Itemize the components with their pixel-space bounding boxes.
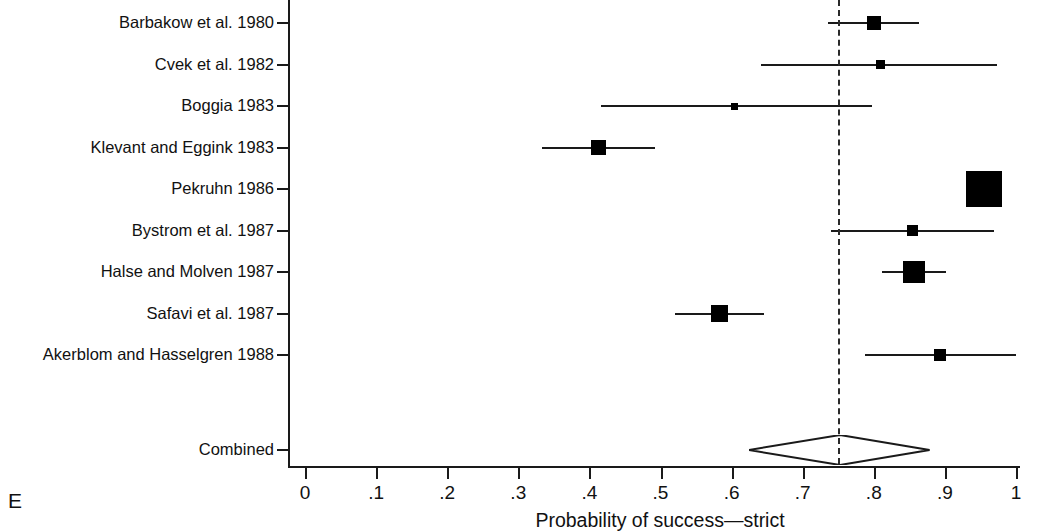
- x-tick-4: [589, 468, 591, 479]
- y-tick-0: [277, 22, 288, 24]
- study-label-4: Pekruhn 1986: [171, 180, 274, 197]
- x-tick-label-9: .9: [925, 483, 965, 502]
- study-label-2: Boggia 1983: [181, 97, 274, 114]
- y-tick-6: [277, 271, 288, 273]
- combined-effect-diamond: [749, 435, 930, 465]
- x-tick-3: [518, 468, 520, 479]
- y-tick-8: [277, 354, 288, 356]
- combined-label: Combined: [199, 441, 274, 458]
- x-tick-8: [874, 468, 876, 479]
- study-label-3: Klevant and Eggink 1983: [91, 139, 274, 156]
- x-tick-label-5: .5: [641, 483, 681, 502]
- x-tick-1: [376, 468, 378, 479]
- study-estimate-marker: [934, 349, 946, 361]
- y-tick-5: [277, 230, 288, 232]
- study-label-8: Akerblom and Hasselgren 1988: [43, 346, 274, 363]
- y-tick-1: [277, 64, 288, 66]
- study-label-7: Safavi et al. 1987: [146, 305, 274, 322]
- x-tick-label-1: .1: [356, 483, 396, 502]
- y-tick-4: [277, 188, 288, 190]
- x-tick-label-10: 1: [996, 483, 1036, 502]
- study-estimate-marker: [711, 305, 728, 322]
- x-tick-label-0: 0: [285, 483, 325, 502]
- x-tick-6: [732, 468, 734, 479]
- y-tick-2: [277, 105, 288, 107]
- study-estimate-marker: [907, 225, 918, 236]
- x-tick-5: [661, 468, 663, 479]
- study-label-1: Cvek et al. 1982: [155, 56, 274, 73]
- x-tick-7: [803, 468, 805, 479]
- x-tick-label-2: .2: [427, 483, 467, 502]
- y-tick-combined: [277, 449, 288, 451]
- y-tick-7: [277, 313, 288, 315]
- y-axis-line: [288, 0, 290, 466]
- x-axis-title: Probability of success—strict: [300, 511, 1020, 531]
- x-tick-10: [1016, 468, 1018, 479]
- forest-plot-figure: Barbakow et al. 1980Cvek et al. 1982Bogg…: [0, 0, 1039, 531]
- x-tick-0: [305, 468, 307, 479]
- x-tick-9: [945, 468, 947, 479]
- x-tick-label-8: .8: [854, 483, 894, 502]
- x-tick-label-4: .4: [569, 483, 609, 502]
- study-estimate-marker: [966, 171, 1002, 207]
- panel-letter: E: [8, 490, 22, 511]
- study-label-5: Bystrom et al. 1987: [132, 222, 274, 239]
- x-tick-2: [447, 468, 449, 479]
- study-estimate-marker: [591, 140, 606, 155]
- study-estimate-marker: [903, 261, 925, 283]
- study-estimate-marker: [876, 60, 885, 69]
- x-axis-line: [288, 466, 1020, 468]
- y-tick-3: [277, 147, 288, 149]
- study-label-6: Halse and Molven 1987: [101, 263, 274, 280]
- reference-line: [838, 0, 840, 464]
- x-tick-label-3: .3: [498, 483, 538, 502]
- study-estimate-marker: [867, 16, 881, 30]
- x-tick-label-6: .6: [712, 483, 752, 502]
- x-tick-label-7: .7: [783, 483, 823, 502]
- study-estimate-marker: [731, 103, 738, 110]
- study-label-0: Barbakow et al. 1980: [119, 14, 274, 31]
